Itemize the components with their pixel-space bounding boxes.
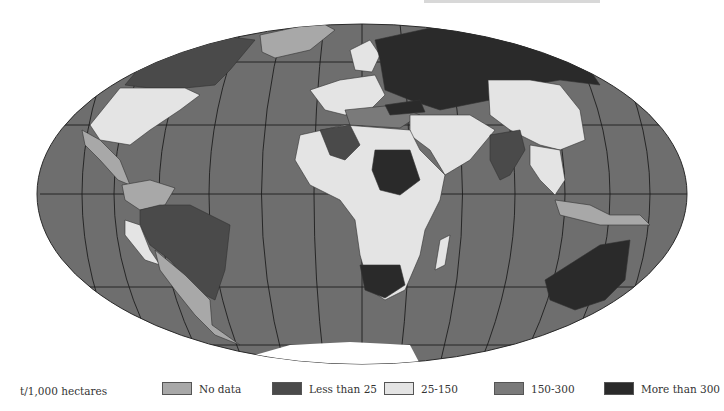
- legend-label: No data: [199, 383, 241, 395]
- legend-label: 25-150: [421, 383, 458, 395]
- legend-swatch-25-150: [384, 382, 414, 395]
- legend-item-no-data: No data: [162, 382, 241, 395]
- legend-item-less-than-25: Less than 25: [272, 382, 377, 395]
- legend-label: 150-300: [531, 383, 575, 395]
- legend: t/1,000 hectares No data Less than 25 25…: [0, 380, 724, 410]
- legend-swatch-no-data: [162, 382, 192, 395]
- legend-swatch-more-than-300: [604, 382, 634, 395]
- legend-swatch-150-300: [494, 382, 524, 395]
- legend-label: More than 300: [641, 383, 720, 395]
- legend-swatch-less-than-25: [272, 382, 302, 395]
- world-map: [0, 0, 724, 370]
- legend-item-more-than-300: More than 300: [604, 382, 720, 395]
- legend-item-150-300: 150-300: [494, 382, 575, 395]
- legend-label: Less than 25: [309, 383, 377, 395]
- legend-item-25-150: 25-150: [384, 382, 458, 395]
- unit-label: t/1,000 hectares: [20, 385, 107, 397]
